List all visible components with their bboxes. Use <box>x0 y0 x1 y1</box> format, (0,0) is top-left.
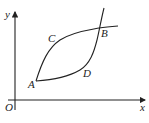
diagram-canvas: y x O A B C D <box>0 0 149 123</box>
lower-curve <box>36 8 104 81</box>
point-d-label: D <box>82 67 91 79</box>
y-axis-label: y <box>4 8 10 20</box>
x-axis-label: x <box>139 101 145 113</box>
point-a-label: A <box>27 78 35 90</box>
origin-label: O <box>5 101 13 113</box>
point-b-label: B <box>101 27 108 39</box>
point-c-label: C <box>48 32 56 44</box>
